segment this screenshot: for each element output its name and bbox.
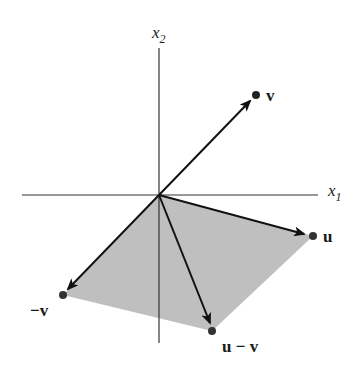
label-neg-v: −v [30, 301, 49, 320]
label-u: u [323, 227, 332, 246]
x2-axis-label: x2 [151, 23, 166, 46]
parallelogram-region [63, 195, 313, 331]
point-u-minus-v [208, 327, 216, 335]
x1-axis-label: x1 [327, 181, 342, 204]
label-v: v [266, 86, 275, 105]
point-neg-v [59, 291, 67, 299]
label-u-minus-v: u − v [222, 337, 259, 356]
vector-diagram: x2 x1 v u −v u − v [0, 0, 364, 368]
vector-v-arrow [159, 101, 250, 195]
point-v [252, 91, 260, 99]
point-u [309, 232, 317, 240]
